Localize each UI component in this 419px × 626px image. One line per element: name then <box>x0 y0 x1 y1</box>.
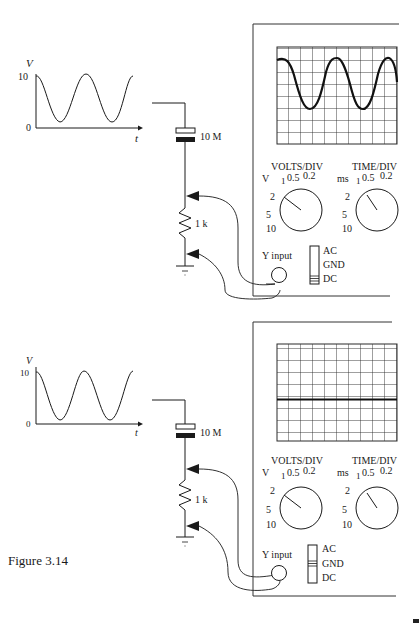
coupling-dc[interactable]: DC <box>322 572 336 583</box>
volts-div-title: VOLTS/DIV <box>271 161 324 172</box>
svg-text:10: 10 <box>342 223 352 234</box>
capacitor-label: 10 M <box>200 427 222 438</box>
probe-lead <box>199 196 275 285</box>
volts-knob-pointer <box>284 495 301 508</box>
svg-text:0.2: 0.2 <box>380 170 393 181</box>
svg-text:2: 2 <box>270 485 275 496</box>
top-panel: V 10 0 t 10 M 1 k <box>18 24 399 299</box>
svg-text:2: 2 <box>345 485 350 496</box>
coupling-gnd[interactable]: GND <box>323 259 345 270</box>
probe-tip-arrow-icon <box>186 464 199 474</box>
resistor-zigzag <box>179 208 191 238</box>
source-voltage-plot: V 10 0 t <box>18 57 143 144</box>
y-input-jack[interactable] <box>272 566 287 581</box>
capacitor-label: 10 M <box>200 131 222 142</box>
svg-text:5: 5 <box>266 504 271 515</box>
probe-tip-arrow-icon <box>186 191 199 201</box>
y-tick-0: 0 <box>26 122 31 133</box>
y-tick-10: 10 <box>20 368 30 378</box>
y-tick-10: 10 <box>18 71 28 82</box>
time-unit: ms <box>337 173 349 184</box>
figure-diagram: V 10 0 t 10 M 1 k <box>0 0 419 626</box>
time-unit: ms <box>337 467 349 478</box>
svg-text:10: 10 <box>266 519 276 530</box>
svg-text:0.5: 0.5 <box>287 467 300 478</box>
coupling-switch[interactable] <box>308 545 317 583</box>
svg-text:1: 1 <box>356 176 361 186</box>
y-axis-label: V <box>26 57 34 69</box>
resistor-label: 1 k <box>195 494 208 505</box>
svg-text:10: 10 <box>342 519 352 530</box>
page-corner-mark <box>413 619 419 623</box>
bottom-panel: V 10 0 t 10 M 1 k VOLTS/DIV <box>20 322 398 596</box>
volts-div-knob[interactable]: V 1 0.5 0.2 2 5 10 <box>262 170 322 234</box>
coupling-gnd[interactable]: GND <box>322 558 344 569</box>
y-input-label: Y input <box>262 250 292 261</box>
svg-text:1: 1 <box>281 176 286 186</box>
time-div-knob[interactable]: ms 1 0.5 0.2 2 5 10 <box>337 465 398 530</box>
capacitor-plate-filled <box>176 137 195 142</box>
svg-text:10: 10 <box>266 223 276 234</box>
y-input-label: Y input <box>262 549 292 560</box>
svg-text:0.2: 0.2 <box>303 465 316 476</box>
svg-text:0.5: 0.5 <box>362 467 375 478</box>
ground-clip-arrow-icon <box>186 521 199 531</box>
volts-div-title: VOLTS/DIV <box>271 455 324 466</box>
y-tick-0: 0 <box>26 419 31 429</box>
time-knob-pointer <box>367 195 377 210</box>
svg-text:2: 2 <box>270 191 275 202</box>
source-voltage-plot: V 10 0 t <box>20 355 143 438</box>
svg-text:5: 5 <box>342 504 347 515</box>
volts-knob-pointer <box>284 197 301 210</box>
svg-text:1: 1 <box>281 471 286 481</box>
time-div-knob[interactable]: ms 1 0.5 0.2 2 5 10 <box>337 170 398 234</box>
svg-text:1: 1 <box>356 471 361 481</box>
volts-unit: V <box>262 173 270 184</box>
coupling-dc[interactable]: DC <box>323 273 337 284</box>
capacitor-plate-open <box>176 128 195 133</box>
probe-lead <box>199 469 275 577</box>
resistor-label: 1 k <box>195 218 208 229</box>
oscilloscope: VOLTS/DIV TIME/DIV V 1 0.5 0.2 2 5 10 ms… <box>253 24 399 296</box>
probe-circuit: 10 M 1 k <box>152 103 280 299</box>
svg-text:5: 5 <box>266 209 271 220</box>
oscilloscope: VOLTS/DIV TIME/DIV V 1 0.5 0.2 2 5 10 ms… <box>253 322 398 596</box>
volts-div-knob[interactable]: V 1 0.5 0.2 2 5 10 <box>262 465 322 530</box>
svg-text:2: 2 <box>345 191 350 202</box>
coupling-switch[interactable] <box>310 246 319 284</box>
scope-screen <box>277 47 397 144</box>
y-axis-label: V <box>26 355 34 366</box>
x-axis-label: t <box>135 427 138 438</box>
coupling-ac[interactable]: AC <box>322 543 336 554</box>
svg-text:0.2: 0.2 <box>380 465 393 476</box>
svg-text:5: 5 <box>342 209 347 220</box>
volts-unit: V <box>262 467 270 478</box>
x-axis-label: t <box>135 132 139 144</box>
coupling-ac[interactable]: AC <box>323 245 337 256</box>
figure-caption: Figure 3.14 <box>8 553 68 569</box>
time-knob-pointer <box>367 493 377 508</box>
y-input-jack[interactable] <box>272 268 287 283</box>
svg-text:0.5: 0.5 <box>287 172 300 183</box>
ground-clip-arrow-icon <box>186 249 199 259</box>
svg-text:0.5: 0.5 <box>362 172 375 183</box>
probe-circuit: 10 M 1 k <box>152 400 280 590</box>
svg-text:0.2: 0.2 <box>303 170 316 181</box>
scope-screen <box>277 344 397 441</box>
